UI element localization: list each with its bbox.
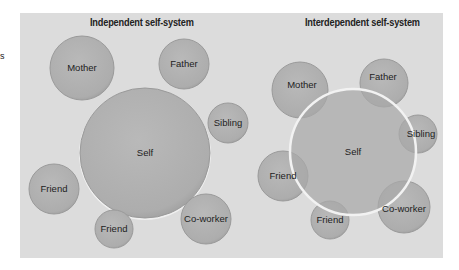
mother-label: Mother — [67, 62, 97, 73]
father-label: Father — [170, 58, 197, 69]
sibling-label: Sibling — [407, 128, 436, 139]
sibling-label: Sibling — [214, 117, 243, 128]
friend-label: Friend — [317, 214, 344, 225]
friend-label: Friend — [101, 223, 128, 234]
co-worker-label: Co-worker — [382, 203, 426, 214]
independent-self-system: SelfMotherFatherSiblingFriendFriendCo-wo… — [29, 36, 248, 248]
self-label: Self — [137, 147, 154, 158]
interdependent-self-system: SelfMotherFatherSiblingFriendFriendCo-wo… — [258, 59, 437, 239]
co-worker-label: Co-worker — [184, 213, 228, 224]
self-system-diagram: SelfMotherFatherSiblingFriendFriendCo-wo… — [0, 0, 459, 270]
friend-label: Friend — [270, 170, 297, 181]
father-label: Father — [369, 71, 396, 82]
self-label: Self — [345, 146, 362, 157]
friend-label: Friend — [41, 183, 68, 194]
mother-label: Mother — [287, 79, 317, 90]
